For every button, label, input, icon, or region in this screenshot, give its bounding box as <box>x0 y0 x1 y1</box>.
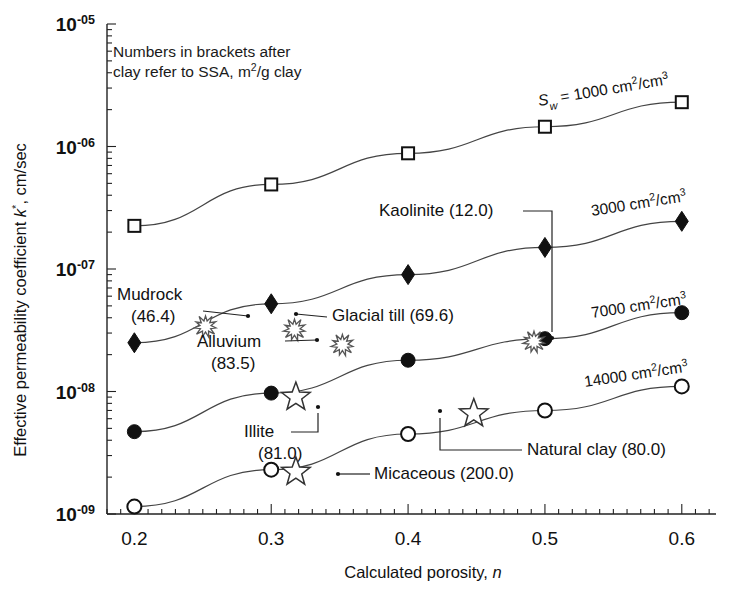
annotation-arrow-head <box>336 472 340 476</box>
marker-open-circle <box>401 427 415 441</box>
annotation-label: Illite <box>244 422 274 441</box>
marker-open-square <box>128 220 140 232</box>
annotation-label: Natural clay (80.0) <box>527 440 666 459</box>
annotation-arrow-head <box>315 338 319 342</box>
annotation-arrow-head <box>550 336 554 340</box>
annotation-label-line2: (83.5) <box>211 354 255 373</box>
permeability-vs-porosity-chart: 10-0910-0810-0710-0610-05 0.20.30.40.50.… <box>0 0 745 593</box>
figure-root: 10-0910-0810-0710-0610-05 0.20.30.40.50.… <box>0 0 745 593</box>
marker-open-circle <box>538 403 552 417</box>
annotation-label-line2: (46.4) <box>131 307 175 326</box>
marker-filled-circle <box>401 353 415 367</box>
annotation-arrow-head <box>438 409 442 413</box>
marker-open-square <box>402 147 414 159</box>
marker-open-circle <box>675 379 689 393</box>
marker-open-square <box>539 121 551 133</box>
marker-open-circle <box>264 463 278 477</box>
marker-open-square <box>676 96 688 108</box>
annotation-arrow-head <box>316 405 320 409</box>
note-line-1: Numbers in brackets after <box>113 43 290 60</box>
y-axis-title: Effective permeability coefficient k*, c… <box>10 143 29 457</box>
annotation-label: Kaolinite (12.0) <box>379 201 493 220</box>
marker-filled-circle <box>264 386 278 400</box>
marker-filled-circle <box>127 425 141 439</box>
x-tick-label: 0.6 <box>669 528 695 549</box>
annotation-label: Glacial till (69.6) <box>332 306 454 325</box>
x-tick-label: 0.2 <box>121 528 147 549</box>
note-line-2: clay refer to SSA, m2/g clay <box>113 61 302 80</box>
annotation-label: Alluvium <box>197 332 261 351</box>
annotation-arrow-head <box>294 312 298 316</box>
annotation-arrow-head <box>246 314 250 318</box>
annotation-label: Micaceous (200.0) <box>374 464 514 483</box>
x-axis-title: Calculated porosity, n <box>344 563 501 581</box>
annotation-label: Mudrock <box>117 285 183 304</box>
x-tick-label: 0.5 <box>532 528 558 549</box>
marker-open-square <box>265 178 277 190</box>
x-tick-label: 0.3 <box>258 528 284 549</box>
marker-open-circle <box>127 500 141 514</box>
x-tick-label: 0.4 <box>395 528 422 549</box>
